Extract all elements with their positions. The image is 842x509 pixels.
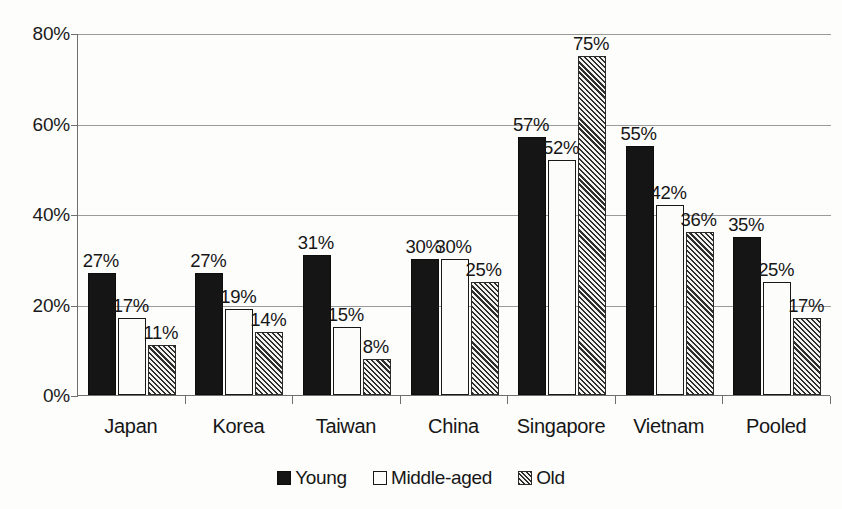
x-axis-tick xyxy=(830,396,831,404)
legend-item-old: Old xyxy=(518,468,565,487)
x-axis-category-label: China xyxy=(400,415,508,437)
x-axis-category-label: Korea xyxy=(185,415,293,437)
bar-singapore-old xyxy=(578,56,606,395)
y-axis-tick-label: 60% xyxy=(0,115,70,134)
value-label: 75% xyxy=(565,35,617,54)
legend-label: Young xyxy=(295,468,347,487)
bar-vietnam-middle-aged xyxy=(656,205,684,395)
bar-korea-old xyxy=(255,332,283,395)
bar-japan-old xyxy=(148,345,176,395)
value-label: 31% xyxy=(290,234,342,253)
value-label: 42% xyxy=(643,184,695,203)
y-axis-tick xyxy=(71,34,78,35)
y-axis-tick-label: 80% xyxy=(0,24,70,43)
value-label: 27% xyxy=(182,252,234,271)
y-axis-tick xyxy=(71,125,78,126)
value-label: 35% xyxy=(720,216,772,235)
bar-china-middle-aged xyxy=(441,259,469,395)
legend-swatch-icon xyxy=(373,471,387,485)
value-label: 27% xyxy=(75,252,127,271)
legend-item-young: Young xyxy=(277,468,347,487)
value-label: 25% xyxy=(750,261,802,280)
x-axis-category-label: Vietnam xyxy=(615,415,723,437)
x-axis-category-label: Japan xyxy=(77,415,185,437)
y-axis-tick-label: 0% xyxy=(0,386,70,405)
value-label: 55% xyxy=(613,125,665,144)
legend-swatch-icon xyxy=(518,471,532,485)
value-label: 11% xyxy=(135,324,187,343)
value-label: 15% xyxy=(320,306,372,325)
legend-item-middle-aged: Middle-aged xyxy=(373,468,492,487)
bar-japan-young xyxy=(88,273,116,395)
chart-legend: YoungMiddle-agedOld xyxy=(0,468,842,487)
legend-swatch-icon xyxy=(277,471,291,485)
bar-taiwan-young xyxy=(303,255,331,395)
bar-vietnam-old xyxy=(686,232,714,395)
x-axis-category-label: Taiwan xyxy=(292,415,400,437)
x-axis-tick xyxy=(292,396,293,404)
gridline xyxy=(78,125,831,126)
y-axis-tick xyxy=(71,215,78,216)
value-label: 14% xyxy=(242,311,294,330)
value-label: 17% xyxy=(780,297,832,316)
legend-label: Old xyxy=(536,468,565,487)
value-label: 17% xyxy=(105,297,157,316)
value-label: 25% xyxy=(458,261,510,280)
x-axis-category-label: Pooled xyxy=(722,415,830,437)
bar-singapore-middle-aged xyxy=(548,160,576,395)
grouped-bar-chart: 0%20%40%60%80% JapanKoreaTaiwanChinaSing… xyxy=(0,0,842,509)
bar-china-old xyxy=(471,282,499,395)
legend-label: Middle-aged xyxy=(391,468,492,487)
x-axis-tick xyxy=(722,396,723,404)
y-axis-tick xyxy=(71,306,78,307)
x-axis-tick xyxy=(615,396,616,404)
value-label: 8% xyxy=(350,338,402,357)
x-axis-category-label: Singapore xyxy=(507,415,615,437)
gridline xyxy=(78,34,831,35)
y-axis-tick-label: 40% xyxy=(0,205,70,224)
bar-taiwan-old xyxy=(363,359,391,395)
value-label: 30% xyxy=(428,238,480,257)
value-label: 57% xyxy=(505,116,557,135)
value-label: 36% xyxy=(673,211,725,230)
bar-singapore-young xyxy=(518,137,546,395)
value-label: 52% xyxy=(535,139,587,158)
y-axis-tick xyxy=(71,396,78,397)
bar-china-young xyxy=(411,259,439,395)
value-label: 19% xyxy=(212,288,264,307)
x-axis-tick xyxy=(400,396,401,404)
bar-pooled-old xyxy=(793,318,821,395)
y-axis-tick-label: 20% xyxy=(0,296,70,315)
x-axis-tick xyxy=(185,396,186,404)
x-axis-tick xyxy=(507,396,508,404)
